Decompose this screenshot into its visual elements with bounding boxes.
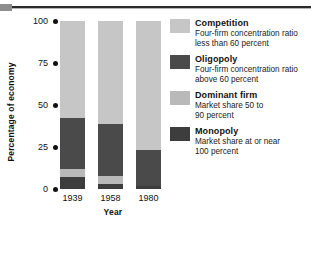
y-tick-label: 75 (38, 57, 48, 69)
legend-item-label: Oligopoly (195, 54, 311, 65)
bar-segment-1939-dominant-firm[interactable] (60, 169, 85, 177)
bar-segment-1939-monopoly[interactable] (60, 177, 85, 189)
legend-item-description-line2: 100 percent (195, 147, 311, 157)
bar-segment-1958-oligopoly[interactable] (98, 124, 123, 176)
x-tick-label-1939: 1939 (56, 193, 90, 203)
y-tick-label: 50 (38, 99, 48, 111)
y-tick-75: 75 (10, 57, 58, 69)
legend-item-description-line1: Market share at or near (195, 137, 311, 147)
legend-item-description-line2: 90 percent (195, 111, 311, 121)
bar-segment-1958-competition[interactable] (98, 21, 123, 123)
legend-swatch-icon (170, 91, 190, 105)
top-rule-tab (0, 4, 12, 11)
y-axis-ticks: 0255075100 (0, 11, 58, 241)
y-tick-label: 25 (38, 141, 48, 153)
bar-segment-1980-oligopoly[interactable] (136, 150, 161, 185)
bar-segment-1958-dominant-firm[interactable] (98, 176, 123, 184)
legend-item-label: Monopoly (195, 126, 311, 137)
y-tick-label: 0 (43, 183, 48, 195)
y-tick-100: 100 (10, 15, 58, 27)
bar-1939[interactable] (60, 21, 85, 189)
legend-text-block: CompetitionFour-firm concentration ratio… (195, 18, 311, 49)
chart-plot-area: Percentage of economy 0255075100 1939195… (0, 11, 170, 268)
x-tick-label-1958: 1958 (94, 193, 128, 203)
bar-segment-1980-competition[interactable] (136, 21, 161, 150)
bar-segment-1958-monopoly[interactable] (98, 184, 123, 189)
legend-item-monopoly[interactable]: MonopolyMarket share at or near100 perce… (170, 126, 311, 157)
bar-1980[interactable] (136, 21, 161, 189)
top-decorative-rule (0, 4, 311, 11)
y-tick-0: 0 (10, 183, 58, 195)
bar-segment-1939-oligopoly[interactable] (60, 118, 85, 168)
legend-item-competition[interactable]: CompetitionFour-firm concentration ratio… (170, 18, 311, 49)
legend-text-block: MonopolyMarket share at or near100 perce… (195, 126, 311, 157)
bar-segment-1980-monopoly[interactable] (136, 186, 161, 189)
legend-item-description-line1: Four-firm concentration ratio (195, 65, 311, 75)
legend-item-description-line2: above 60 percent (195, 75, 311, 85)
legend-item-label: Competition (195, 18, 311, 29)
chart-legend: CompetitionFour-firm concentration ratio… (170, 18, 311, 162)
legend-text-block: OligopolyFour-firm concentration ratioab… (195, 54, 311, 85)
legend-swatch-icon (170, 127, 190, 141)
legend-item-description-line1: Market share 50 to (195, 101, 311, 111)
y-tick-label: 100 (33, 15, 48, 27)
legend-item-label: Dominant firm (195, 90, 311, 101)
legend-item-description-line2: less than 60 percent (195, 39, 311, 49)
y-tick-25: 25 (10, 141, 58, 153)
legend-item-description-line1: Four-firm concentration ratio (195, 29, 311, 39)
x-tick-label-1980: 1980 (132, 193, 166, 203)
bar-1958[interactable] (98, 21, 123, 189)
legend-text-block: Dominant firmMarket share 50 to90 percen… (195, 90, 311, 121)
top-rule-line-shadow (12, 8, 311, 9)
x-axis-title: Year (58, 207, 168, 217)
bar-segment-1939-competition[interactable] (60, 21, 85, 118)
legend-item-oligopoly[interactable]: OligopolyFour-firm concentration ratioab… (170, 54, 311, 85)
y-tick-50: 50 (10, 99, 58, 111)
legend-swatch-icon (170, 19, 190, 33)
legend-swatch-icon (170, 55, 190, 69)
legend-item-dominant-firm[interactable]: Dominant firmMarket share 50 to90 percen… (170, 90, 311, 121)
